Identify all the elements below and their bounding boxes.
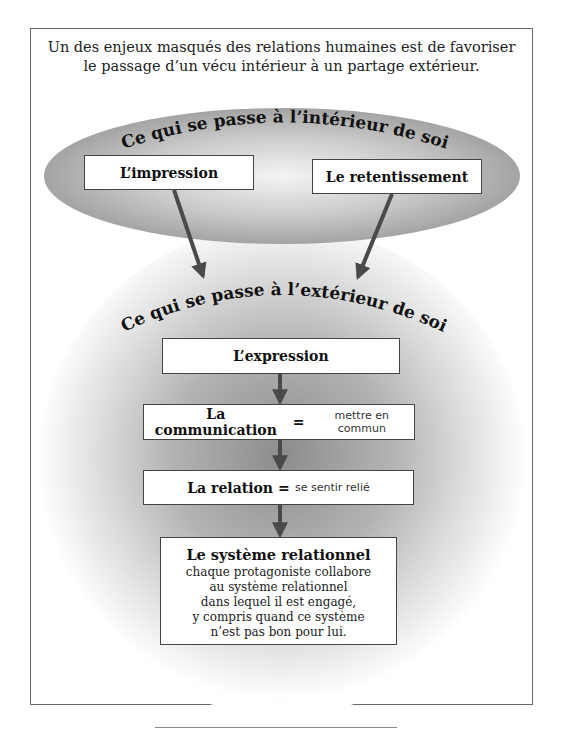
relation-definition: se sentir relié (295, 481, 370, 494)
system-line-5: n’est pas bon pour lui. (210, 625, 346, 640)
system-title: Le système relationnel (186, 546, 370, 563)
retentissement-box: Le retentissement (312, 159, 482, 194)
relation-label: La relation (187, 480, 273, 496)
system-box: Le système relationnel chaque protagonis… (160, 537, 397, 645)
page-separator-line (155, 727, 397, 728)
impression-box: L’impression (84, 155, 254, 190)
impression-label: L’impression (120, 165, 218, 181)
communication-box: La communication = mettre en commun (143, 404, 415, 440)
system-line-4: y compris quand ce système (192, 610, 364, 625)
expression-box: L’expression (162, 338, 400, 374)
expression-label: L’expression (233, 348, 328, 364)
relation-box: La relation = se sentir relié (143, 470, 414, 505)
communication-equals: = (293, 414, 305, 430)
system-line-3: dans lequel il est engagé, (201, 595, 356, 610)
relation-equals: = (278, 480, 290, 496)
communication-definition: mettre en commun (310, 409, 414, 435)
system-line-1: chaque protagoniste collabore (186, 565, 371, 580)
retentissement-label: Le retentissement (326, 169, 468, 185)
communication-label: La communication (144, 406, 288, 438)
system-line-2: au système relationnel (209, 580, 347, 595)
